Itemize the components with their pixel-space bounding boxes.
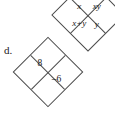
figure-canvas: xy x y x+y d. 8 –6 [0, 0, 115, 114]
numeric-diamond: 8 –6 [13, 37, 84, 108]
numeric-diamond-grid: 8 –6 [13, 37, 84, 108]
variable-diamond-bottom-value: x+y [72, 19, 86, 28]
variable-diamond-grid: xy x y x+y [51, 0, 115, 52]
problem-label: d. [4, 45, 12, 56]
variable-diamond: xy x y x+y [51, 0, 115, 52]
